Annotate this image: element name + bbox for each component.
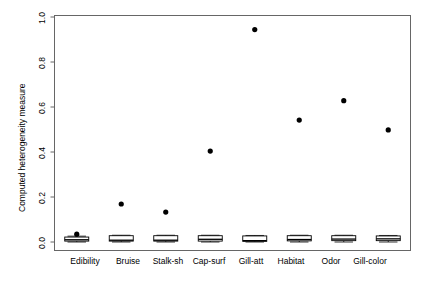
boxplot-edibility (65, 236, 89, 242)
y-axis-tickmarks (51, 17, 55, 242)
chart-figure: Computed heterogeneity measure 1.0 0.8 0… (0, 0, 431, 286)
data-point-odor (341, 98, 346, 103)
boxplot-odor (332, 235, 356, 242)
data-point-habitat (297, 117, 302, 122)
data-point-gill-color (386, 127, 391, 132)
boxplot-gill-color (376, 235, 400, 242)
boxplot-gill-att (243, 235, 267, 242)
plot-canvas (0, 0, 431, 286)
boxplot-bruise (109, 235, 133, 242)
boxplot-group (65, 235, 401, 242)
data-point-bruise (119, 201, 124, 206)
boxplot-cap-surf (198, 235, 222, 242)
plot-frame (55, 16, 411, 251)
boxplot-habitat (287, 235, 311, 242)
data-point-cap-surf (208, 149, 213, 154)
data-point-edibility (74, 232, 79, 237)
boxplot-stalk-sh (154, 235, 178, 242)
data-point-stalk-sh (163, 209, 168, 214)
data-point-gill-att (252, 27, 257, 32)
scatter-points-group (74, 27, 391, 237)
